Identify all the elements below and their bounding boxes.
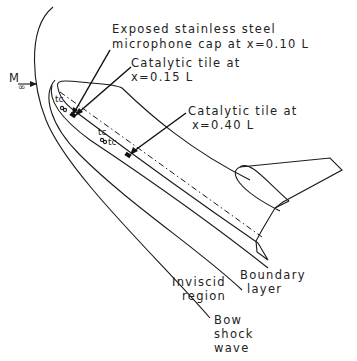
mach-subscript: ∞ [18, 82, 26, 92]
bow-shock-label-line1: Bow [214, 313, 242, 327]
boundary-layer-label-line1: Boundary [240, 268, 306, 282]
tc-label-1: tc [55, 94, 64, 104]
callout-tile-040-line2: x=0.40 L [192, 118, 255, 132]
bow-shock-curve [34, 7, 210, 318]
wing-root-line [275, 201, 289, 208]
leader-tile-040 [134, 113, 186, 151]
leader-mic-cap [75, 50, 110, 111]
vehicle-tail-tip [240, 158, 342, 260]
callout-mic-cap-line2: microphone cap at x=0.10 L [112, 37, 309, 51]
callout-tile-040-line1: Catalytic tile at [188, 104, 298, 118]
boundary-layer-label-line2: layer [247, 282, 282, 296]
leader-tile-015 [78, 67, 131, 113]
callout-tile-015-line2: x=0.15 L [131, 70, 194, 84]
tc-sensor-circle-2b [103, 140, 106, 143]
callout-tile-015-line1: Catalytic tile at [131, 56, 241, 70]
tc-sensor-circle-1b [63, 108, 66, 111]
mic-cap-marker [69, 112, 76, 119]
inviscid-region-label-line1: Inviscid [172, 275, 226, 289]
tc-label-3: tc [108, 137, 117, 147]
bow-shock-label-line3: wave [214, 341, 250, 355]
inviscid-region-label-line2: region [182, 289, 226, 303]
diagram-canvas: M ∞ Exposed stainless steel microphone c… [0, 0, 357, 361]
bow-shock-label-line2: shock [214, 327, 254, 341]
tc-label-2: tc [98, 127, 107, 137]
callout-mic-cap-line1: Exposed stainless steel [112, 22, 276, 36]
